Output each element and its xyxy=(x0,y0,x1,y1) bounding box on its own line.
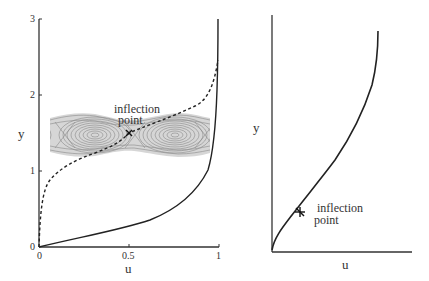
right-y-axis-label: y xyxy=(253,121,260,134)
y-tick-2: 2 xyxy=(30,90,35,100)
right-plot xyxy=(272,15,412,252)
figure-canvas xyxy=(0,0,429,281)
inflection-marker-right xyxy=(295,207,305,217)
x-tick-1: 1 xyxy=(216,251,221,261)
left-plot xyxy=(0,19,219,247)
left-annotation-line2: point xyxy=(118,115,143,126)
right-annotation-line2: point xyxy=(314,215,339,226)
left-y-axis-label: y xyxy=(18,127,25,140)
cats-eye-contours xyxy=(0,110,215,160)
y-tick-1: 1 xyxy=(30,166,35,176)
left-x-axis-label: u xyxy=(125,262,132,275)
y-tick-3: 3 xyxy=(30,14,35,24)
y-tick-0: 0 xyxy=(30,242,35,252)
x-tick-0: 0 xyxy=(37,251,42,261)
x-tick-0-5: 0.5 xyxy=(122,251,135,261)
right-x-axis-label: u xyxy=(342,258,349,271)
